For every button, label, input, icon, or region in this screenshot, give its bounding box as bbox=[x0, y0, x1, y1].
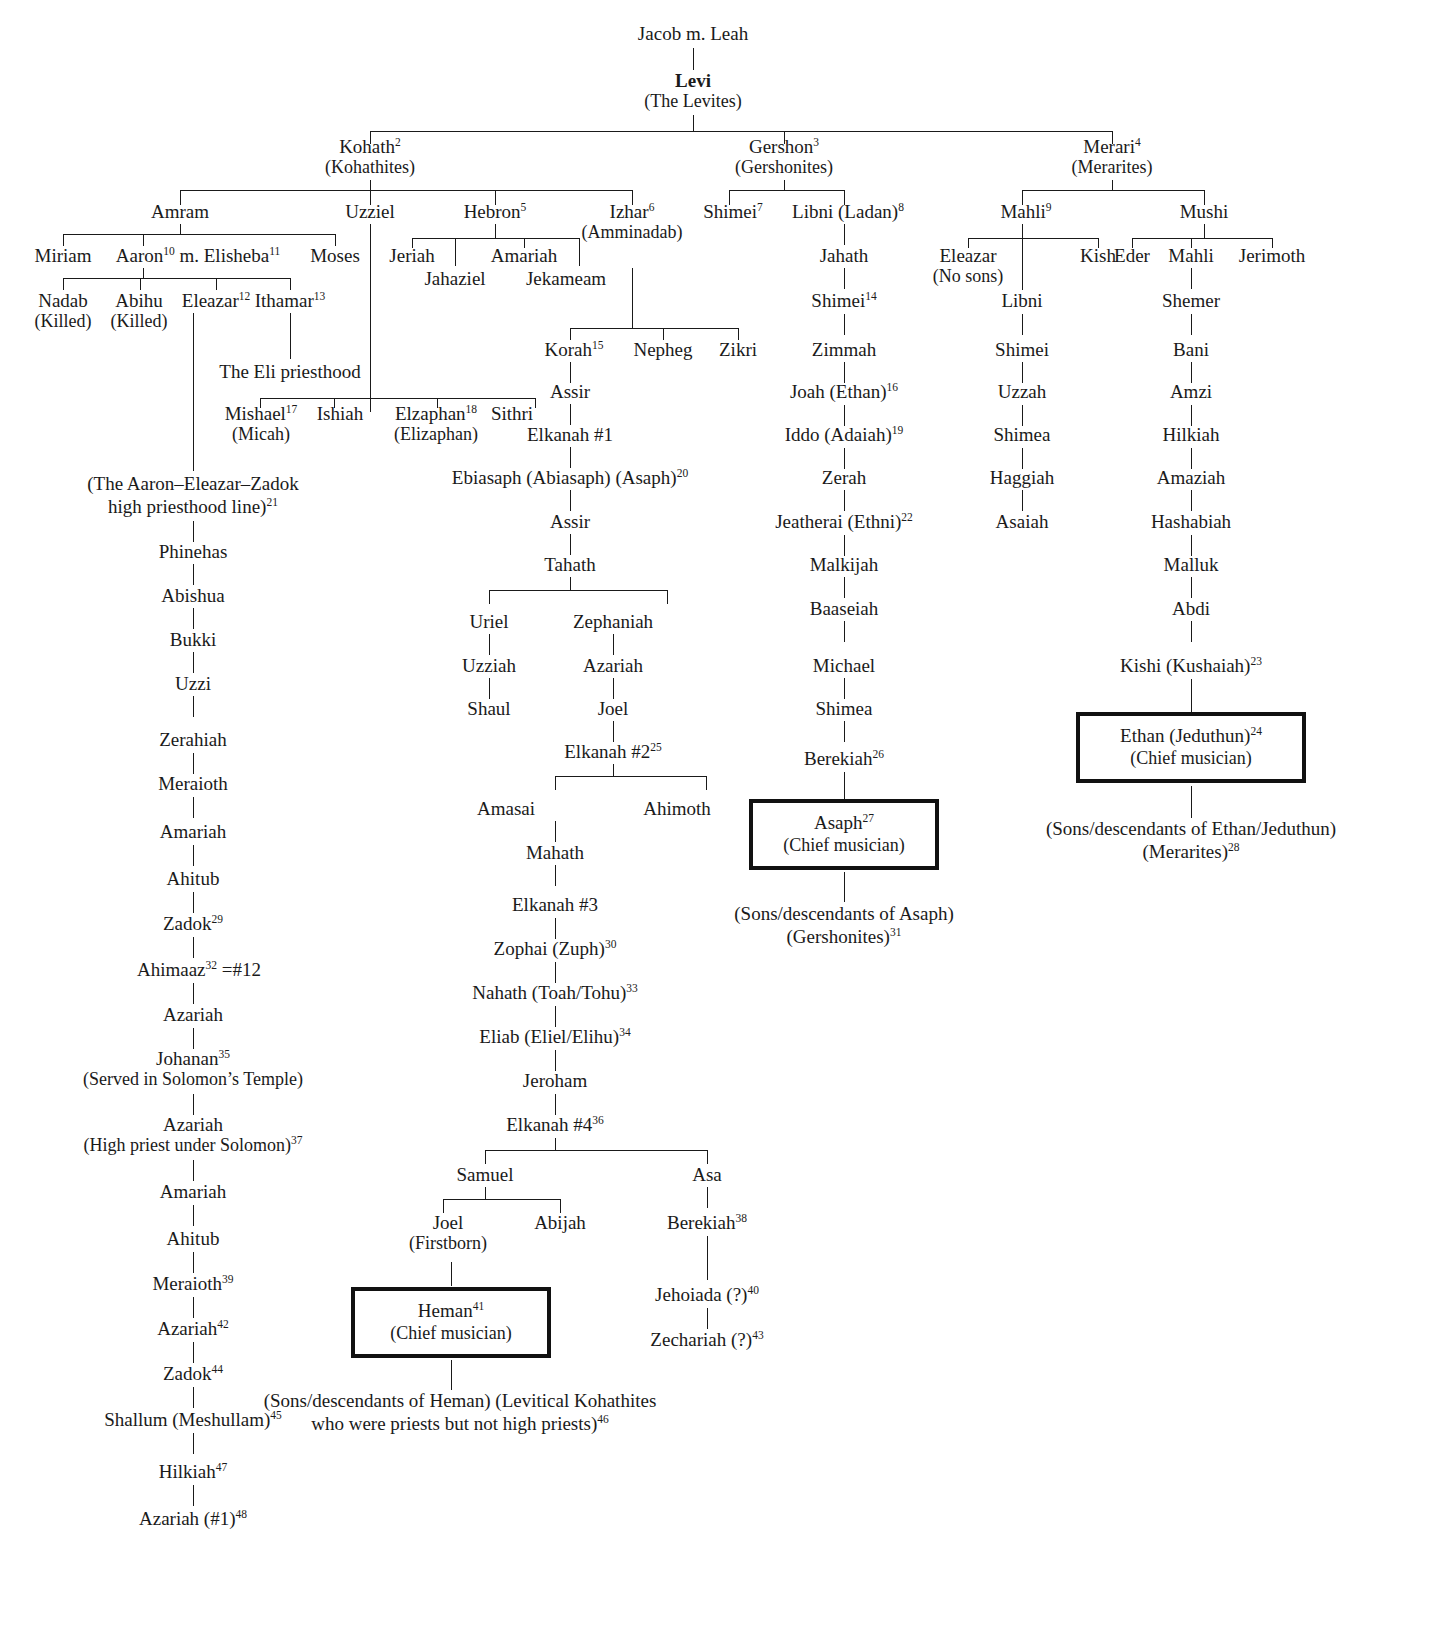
note-heman-descendants: (Sons/descendants of Heman) (Levitical K… bbox=[264, 1390, 657, 1436]
node-malluk: Malluk bbox=[1164, 554, 1219, 575]
note-line-2: (Gershonites) bbox=[787, 926, 890, 947]
node-label: Jekameam bbox=[526, 268, 606, 289]
connector bbox=[193, 892, 194, 913]
node-elkanah-3: Elkanah #3 bbox=[512, 894, 598, 915]
node-label: Libni bbox=[1001, 290, 1042, 311]
node-malkijah: Malkijah bbox=[810, 554, 879, 575]
connector bbox=[180, 224, 181, 234]
connector bbox=[193, 937, 194, 958]
connector bbox=[844, 678, 845, 699]
footnote-ref: 45 bbox=[270, 1409, 282, 1421]
node-label: Bani bbox=[1173, 339, 1209, 360]
footnote-ref: 38 bbox=[736, 1212, 748, 1224]
node-joel-samuel: Joel(Firstborn) bbox=[409, 1212, 487, 1254]
connector bbox=[844, 448, 845, 469]
connector bbox=[1191, 268, 1192, 289]
node-uzziah: Uzziah bbox=[462, 655, 516, 676]
node-label: Shimea bbox=[816, 698, 873, 719]
footnote-ref: 2 bbox=[395, 136, 401, 148]
node-baaseiah: Baaseiah bbox=[810, 598, 879, 619]
node-label: Samuel bbox=[457, 1164, 514, 1185]
node-label: Jacob m. Leah bbox=[638, 23, 748, 44]
node-shimei-14: Shimei14 bbox=[811, 290, 876, 311]
node-label: Asaph bbox=[814, 812, 863, 833]
footnote-ref: 4 bbox=[1135, 136, 1141, 148]
node-shimei-merari: Shimei bbox=[995, 339, 1049, 360]
connector bbox=[489, 590, 490, 604]
node-label: Jeriah bbox=[389, 245, 434, 266]
node-label: Levi bbox=[675, 70, 711, 91]
node-label: Ahitub bbox=[167, 868, 220, 889]
connector bbox=[1022, 190, 1204, 191]
node-label: Elkanah #2 bbox=[564, 741, 650, 762]
connector bbox=[555, 1006, 556, 1027]
node-label: Mahath bbox=[526, 842, 584, 863]
note-line-2: who were priests but not high priests) bbox=[311, 1413, 597, 1434]
node-label: Shimei bbox=[811, 290, 865, 311]
node-sublabel: (Killed) bbox=[111, 311, 168, 331]
node-label: Amariah bbox=[160, 1181, 226, 1202]
node-label: Eliab (Eliel/Elihu) bbox=[479, 1026, 619, 1047]
connector bbox=[579, 238, 580, 266]
node-label: Jahaziel bbox=[424, 268, 485, 289]
connector bbox=[193, 696, 194, 717]
node-hebron: Hebron5 bbox=[464, 201, 527, 222]
connector bbox=[844, 577, 845, 598]
connector bbox=[63, 234, 335, 235]
footnote-ref: 28 bbox=[1228, 840, 1240, 852]
footnote-ref: 20 bbox=[677, 467, 689, 479]
node-amariah-1: Amariah bbox=[160, 821, 226, 842]
connector bbox=[443, 1199, 560, 1200]
connector bbox=[729, 190, 844, 191]
connector bbox=[1022, 490, 1023, 511]
connector bbox=[485, 1187, 486, 1199]
node-shaul: Shaul bbox=[467, 698, 510, 719]
connector bbox=[193, 1342, 194, 1363]
node-iddo-adaiah: Iddo (Adaiah)19 bbox=[785, 424, 904, 445]
footnote-ref: 13 bbox=[314, 290, 326, 302]
node-label: Azariah bbox=[163, 1114, 223, 1135]
node-jekameam: Jekameam bbox=[526, 268, 606, 289]
footnote-ref: 5 bbox=[521, 201, 527, 213]
node-label: Amram bbox=[151, 201, 209, 222]
node-label: Hebron bbox=[464, 201, 521, 222]
node-label: Nadab bbox=[38, 290, 88, 311]
connector bbox=[1191, 362, 1192, 383]
node-kishi: Kishi (Kushaiah)23 bbox=[1120, 655, 1262, 676]
node-izhar: Izhar6(Amminadab) bbox=[582, 201, 683, 243]
node-label: Shemer bbox=[1162, 290, 1220, 311]
connector bbox=[784, 180, 785, 190]
connector bbox=[844, 490, 845, 511]
node-eleazar-no-sons: Eleazar(No sons) bbox=[933, 245, 1004, 287]
connector bbox=[1191, 490, 1192, 511]
node-label: Shimea bbox=[994, 424, 1051, 445]
node-ithamar: Ithamar13 bbox=[255, 290, 326, 311]
node-sublabel: (Elizaphan) bbox=[394, 424, 478, 444]
node-amaziah: Amaziah bbox=[1157, 467, 1226, 488]
node-label: Bukki bbox=[170, 629, 216, 650]
connector bbox=[555, 1138, 556, 1150]
node-sublabel: (No sons) bbox=[933, 266, 1004, 286]
node-label: Zophai (Zuph) bbox=[494, 938, 605, 959]
node-phinehas: Phinehas bbox=[159, 541, 228, 562]
node-sublabel: (Amminadab) bbox=[582, 222, 683, 242]
node-shimea-gershon: Shimea bbox=[816, 698, 873, 719]
connector bbox=[844, 772, 845, 799]
node-assir-2: Assir bbox=[550, 511, 590, 532]
node-label: Abijah bbox=[534, 1212, 586, 1233]
connector bbox=[290, 278, 291, 290]
node-label: Azariah bbox=[157, 1318, 217, 1339]
node-jeroham: Jeroham bbox=[523, 1070, 587, 1091]
connector bbox=[555, 776, 706, 777]
connector bbox=[555, 1094, 556, 1115]
node-label: Kohath bbox=[339, 136, 395, 157]
node-tahath: Tahath bbox=[544, 554, 595, 575]
connector bbox=[193, 1094, 194, 1115]
node-moses: Moses bbox=[310, 245, 360, 266]
connector bbox=[193, 652, 194, 673]
node-label: Eleazar bbox=[940, 245, 997, 266]
node-hilkiah-merari: Hilkiah bbox=[1163, 424, 1220, 445]
connector bbox=[968, 238, 1098, 239]
node-jahaziel: Jahaziel bbox=[424, 268, 485, 289]
node-johanan: Johanan35(Served in Solomon’s Temple) bbox=[83, 1048, 303, 1090]
